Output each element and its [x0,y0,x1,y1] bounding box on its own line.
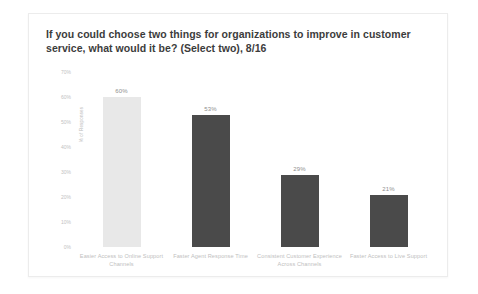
bar-group: 60% Easier Access to Online Support Chan… [77,72,166,247]
bar-group: 21% Faster Access to Live Support [344,72,433,247]
y-axis-tick: 40% [61,144,71,150]
bar-series: 60% Easier Access to Online Support Chan… [77,72,433,247]
y-axis-tick: 70% [61,69,71,75]
chart-card: If you could choose two things for organ… [28,13,448,277]
bar [281,175,319,247]
plot-area: % of Responses 70% 60% 50% 40% 30% 20% 1… [77,72,433,247]
y-axis-tick: 50% [61,119,71,125]
bar-value-label: 29% [293,166,305,172]
bar [103,97,141,247]
x-axis-category-label: Easier Access to Online Support Channels [77,252,166,268]
y-axis-tick: 30% [61,169,71,175]
x-axis-category-label: Consistent Customer Experience Across Ch… [255,252,344,268]
bar-value-label: 21% [382,186,394,192]
x-axis-category-label: Faster Agent Response Time [166,252,255,260]
bar-value-label: 53% [204,106,216,112]
y-axis-tick: 20% [61,194,71,200]
y-axis-tick: 0% [64,244,71,250]
bar-value-label: 60% [115,88,127,94]
y-axis-tick: 10% [61,219,71,225]
bar-group: 29% Consistent Customer Experience Acros… [255,72,344,247]
x-axis-category-label: Faster Access to Live Support [344,252,433,260]
bar [370,195,408,248]
page-title: If you could choose two things for organ… [46,27,416,55]
bar-group: 53% Faster Agent Response Time [166,72,255,247]
y-axis-tick: 60% [61,94,71,100]
bar [192,115,230,248]
